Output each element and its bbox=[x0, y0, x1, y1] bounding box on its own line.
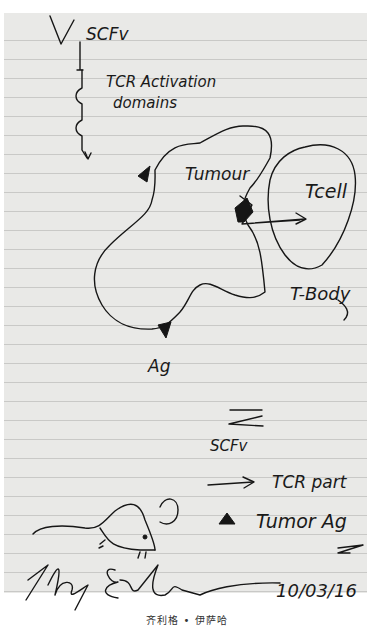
triangle-icon bbox=[219, 513, 235, 524]
scfv-fork-icon bbox=[229, 410, 263, 426]
signature bbox=[26, 565, 280, 610]
scfv-label: SCFv bbox=[86, 24, 129, 44]
domains-label: domains bbox=[113, 94, 177, 112]
date-label: 10/03/16 bbox=[276, 580, 357, 601]
tumour-label: Tumour bbox=[185, 164, 250, 184]
legend-tumor-ag-label: Tumor Ag bbox=[256, 510, 347, 532]
legend-tcr-part-label: TCR part bbox=[272, 472, 348, 492]
antigen-triangle-icon bbox=[138, 166, 150, 182]
arrow-icon bbox=[208, 477, 254, 488]
mouse-doodle-icon bbox=[33, 499, 178, 558]
hand-drawn-sketch: SCFv TCR Activation domains Tumour Tcell… bbox=[0, 0, 374, 633]
tumour-outline bbox=[94, 126, 271, 329]
legend-scfv-label: SCFv bbox=[210, 437, 249, 455]
car-construct-icon bbox=[50, 16, 91, 159]
tbody-label: T-Body bbox=[290, 283, 351, 304]
ag-label: Ag bbox=[147, 356, 171, 376]
tcell-outline bbox=[268, 145, 355, 269]
antigen-triangle-icon bbox=[158, 322, 171, 338]
ag-flourish bbox=[338, 545, 363, 553]
image-caption: 齐利格 • 伊萨哈 bbox=[0, 612, 374, 627]
tcr-activation-label: TCR Activation bbox=[106, 73, 216, 91]
tcell-label: Tcell bbox=[305, 180, 348, 202]
